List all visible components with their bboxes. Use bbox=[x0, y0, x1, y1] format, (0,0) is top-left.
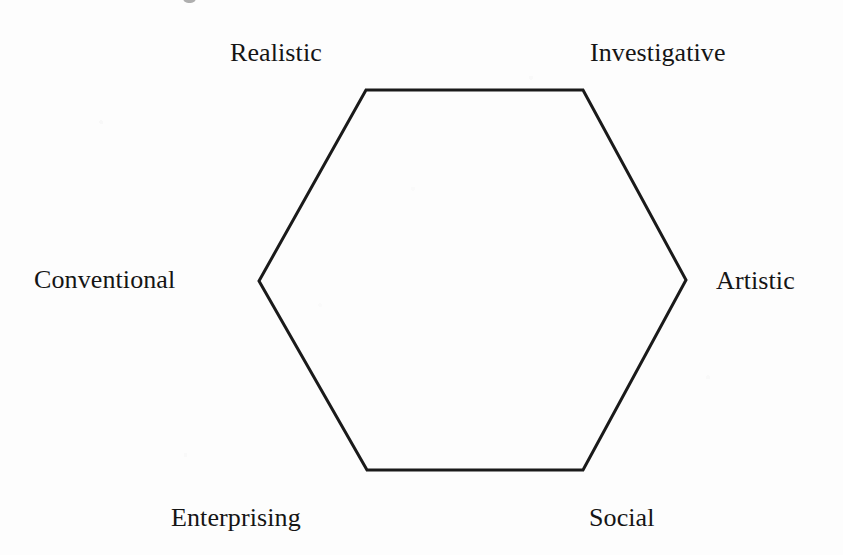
hexagon-outline bbox=[259, 90, 686, 470]
hexagon-figure: Realistic Investigative Conventional Art… bbox=[0, 0, 843, 555]
vertex-label-realistic: Realistic bbox=[230, 40, 322, 66]
vertex-label-conventional: Conventional bbox=[34, 267, 175, 293]
vertex-label-enterprising: Enterprising bbox=[171, 505, 301, 531]
vertex-label-social: Social bbox=[589, 505, 655, 531]
vertex-label-artistic: Artistic bbox=[716, 268, 795, 294]
vertex-label-investigative: Investigative bbox=[590, 40, 726, 66]
